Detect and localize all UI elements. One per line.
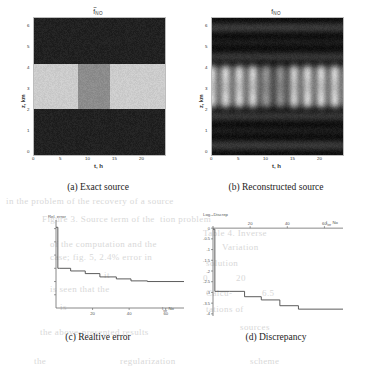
panel-a-ytick: 5 [27,44,29,49]
svg-text:60: 60 [163,311,168,316]
panel-b-ytick: 2 [205,107,207,112]
panel-b-xtick: 20 [317,156,322,161]
panel-b-xtick: 0 [210,156,212,161]
panel-a-title: ~ f NO [18,8,178,16]
bleed-through-text: in the problem of the recovery of a sour… [6,196,174,206]
panel-b-heatmap [212,18,343,155]
panel-b-plot-area [211,17,344,156]
panel-a-ytick: 0 [27,149,29,154]
panel-a-ytick: 2 [27,107,29,112]
panel-b-xtick: 15 [290,156,295,161]
panel-a-ytick: 6 [27,23,29,28]
svg-text:0: 0 [208,226,211,231]
panel-b-caption: (b) Reconstructed source [196,182,356,192]
panel-c-relative-error: Rel. error Iter No 204060 [46,214,191,322]
svg-text:20: 20 [90,311,95,316]
panel-a-xtick: 10 [85,156,90,161]
panel-b-ylabel: z, km [198,94,204,108]
bleed-through-text: sources [240,322,270,332]
panel-a-ytick: 3 [27,86,29,91]
panel-a-ylabel: z, km [20,94,26,108]
bleed-through-text: the [34,356,46,366]
panel-b-xtick: 5 [237,156,239,161]
panel-b-reconstructed-source: fNO z, km 0 1 2 3 4 5 6 0 5 10 15 20 t, … [196,6,356,181]
panel-b-ytick: 1 [205,128,207,133]
bleed-through-text: scheme [250,356,279,366]
svg-text:40: 40 [285,221,290,226]
panel-a-xlabel: t, h [33,163,164,169]
svg-text:-0.5: -0.5 [203,236,211,241]
svg-text:40: 40 [127,311,132,316]
svg-text:-1: -1 [206,247,210,252]
svg-text:-4: -4 [206,311,210,316]
panel-b-ytick: 5 [205,44,207,49]
panel-b-ytick: 4 [205,65,207,70]
svg-text:-1.5: -1.5 [203,258,211,263]
panel-b-ytick: 3 [205,86,207,91]
panel-a-plot-area [33,17,166,156]
svg-text:20: 20 [248,221,253,226]
panel-a-caption: (a) Exact source [18,182,178,192]
panel-b-ytick: 0 [205,149,207,154]
panel-a-xtick: 0 [32,156,34,161]
panel-a-xtick: 15 [112,156,117,161]
panel-a-heatmap [34,18,165,155]
bleed-through-text: regularization [120,356,176,366]
panel-b-xtick: 10 [263,156,268,161]
panel-b-title-sub: NO [273,11,280,16]
svg-text:-3: -3 [206,290,210,295]
panel-b-xlabel: t, h [211,163,342,169]
svg-text:60: 60 [322,221,327,226]
panel-a-title-sub: NO [95,11,102,16]
panel-a-xtick: 20 [139,156,144,161]
svg-text:-2.5: -2.5 [203,279,211,284]
svg-text:-3.5: -3.5 [203,301,211,306]
panel-c-caption: (c) Realtive error [18,332,178,342]
panel-d-discrepancy: Log₁₀Discrep Iter No 0-0.5-1-1.5-2-2.5-3… [203,212,358,322]
panel-a-xtick: 5 [59,156,61,161]
svg-text:-2: -2 [206,269,210,274]
panel-a-ytick: 4 [27,65,29,70]
panel-b-title: fNO [196,8,356,16]
panel-b-ytick: 6 [205,23,207,28]
panel-c-plot: 204060 [46,214,191,322]
panel-a-title-symbol: ~ f [93,8,95,15]
panel-a-ytick: 1 [27,128,29,133]
panel-d-caption: (d) Discrepancy [196,332,356,342]
panel-d-plot: 0-0.5-1-1.5-2-2.5-3-3.5-4204060 [203,212,358,322]
panel-a-exact-source: ~ f NO z, km 0 1 2 3 4 5 6 0 5 10 15 20 … [18,6,178,181]
